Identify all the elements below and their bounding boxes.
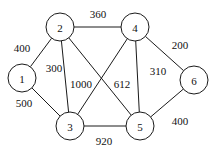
node-1[interactable]: 1: [8, 64, 36, 92]
node-label-4: 4: [132, 22, 138, 34]
node-label-2: 2: [57, 22, 63, 34]
edge-2-5: [69, 38, 131, 115]
node-4[interactable]: 4: [121, 13, 149, 41]
edge-2-3: [61, 41, 68, 112]
edge-5-6: [151, 89, 184, 117]
node-label-6: 6: [191, 75, 197, 87]
node-label-5: 5: [137, 121, 143, 133]
node-6[interactable]: 6: [180, 66, 208, 94]
node-3[interactable]: 3: [56, 112, 84, 140]
edge-weight-5-6: 400: [172, 115, 189, 127]
edge-weight-1-3: 500: [16, 97, 33, 109]
edge-weight-1-2: 400: [14, 42, 31, 54]
node-2[interactable]: 2: [46, 13, 74, 41]
edge-weight-4-5: 310: [150, 65, 167, 77]
edge-weight-3-4: 612: [114, 78, 131, 90]
edge-1-3: [32, 88, 60, 116]
node-5[interactable]: 5: [126, 112, 154, 140]
node-label-1: 1: [19, 73, 25, 85]
graph-figure: 123456 4005003003601000612920310200400: [0, 0, 218, 154]
edge-4-5: [136, 41, 140, 112]
edge-weight-2-4: 360: [90, 8, 107, 20]
edge-3-4: [78, 39, 128, 115]
node-label-3: 3: [67, 121, 73, 133]
graph-canvas: 123456 4005003003601000612920310200400: [0, 0, 218, 154]
edge-weight-3-5: 920: [96, 135, 113, 147]
edge-weight-2-5: 1000: [70, 78, 93, 90]
edge-weight-2-3: 300: [46, 62, 63, 74]
edge-weight-4-6: 200: [172, 39, 189, 51]
